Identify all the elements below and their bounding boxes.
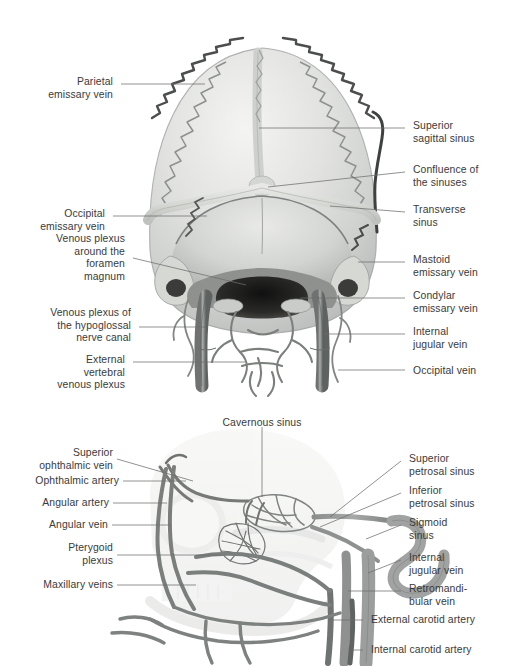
label-internal-carotid-artery: Internal carotid artery	[371, 644, 526, 657]
label-parietal-emissary-vein: Parietal emissary vein	[0, 76, 113, 101]
label-superior-ophthalmic-vein: Superior ophthalmic vein	[0, 447, 113, 472]
label-venous-plexus-foramen-magnum: Venous plexus around the foramen magnum	[0, 233, 125, 283]
label-cavernous-sinus: Cavernous sinus	[192, 417, 332, 430]
label-occipital-vein: Occipital vein	[413, 365, 526, 378]
label-occipital-emissary-vein: Occipital emissary vein	[0, 208, 105, 233]
label-internal-jugular-vein: Internal jugular vein	[413, 326, 526, 351]
label-internal-jugular-vein-lateral: Internal jugular vein	[409, 552, 526, 577]
label-external-vertebral-venous-plexus: External vertebral venous plexus	[0, 354, 125, 392]
label-superior-petrosal-sinus: Superior petrosal sinus	[409, 453, 526, 478]
label-sigmoid-sinus: Sigmoid sinus	[409, 517, 526, 542]
label-transverse-sinus: Transverse sinus	[413, 204, 526, 229]
label-pterygoid-plexus: Pterygoid plexus	[0, 542, 113, 567]
label-external-carotid-artery: External carotid artery	[371, 614, 526, 627]
figure-skull-lateral: Cavernous sinus Superior ophthalmic vein…	[0, 405, 526, 666]
label-superior-sagittal-sinus: Superior sagittal sinus	[413, 120, 526, 145]
label-venous-plexus-hypoglossal-canal: Venous plexus of the hypoglossal nerve c…	[0, 307, 131, 345]
label-retromandibular-vein: Retromandi- bular vein	[409, 583, 526, 608]
label-ophthalmic-artery: Ophthalmic artery	[0, 475, 119, 488]
figure-cranial-posterior: Parietal emissary vein Occipital emissar…	[0, 0, 526, 400]
label-inferior-petrosal-sinus: Inferior petrosal sinus	[409, 485, 526, 510]
label-angular-vein: Angular vein	[0, 519, 108, 532]
label-maxillary-veins: Maxillary veins	[0, 579, 113, 592]
label-confluence-of-the-sinuses: Confluence of the sinuses	[413, 164, 526, 189]
label-angular-artery: Angular artery	[0, 497, 109, 510]
label-mastoid-emissary-vein: Mastoid emissary vein	[413, 254, 526, 279]
label-condylar-emissary-vein: Condylar emissary vein	[413, 290, 526, 315]
